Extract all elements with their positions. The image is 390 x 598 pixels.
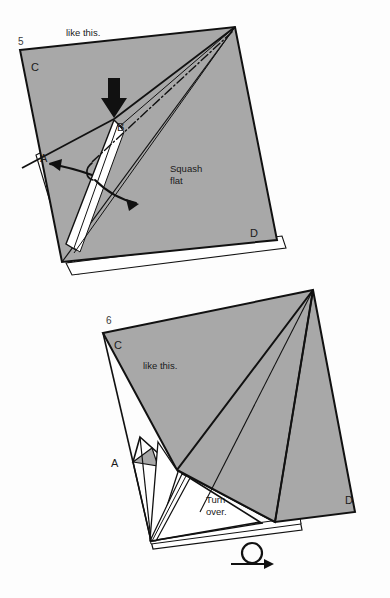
step-6-label-c: C — [114, 339, 122, 351]
step-5-instruction-line1: Squash — [170, 163, 202, 174]
step-6-instruction-line2: over. — [206, 506, 227, 517]
step-5-label-a: A — [40, 152, 48, 164]
step-6-label-a: A — [111, 457, 119, 469]
step-5-instruction-line2: flat — [170, 175, 183, 186]
step-6-caption: like this. — [143, 360, 177, 371]
step-6-label-d: D — [345, 494, 353, 506]
step-5-label-b: B — [117, 121, 124, 133]
turn-over-icon — [231, 543, 274, 569]
step-6-diagram: 6 C like this. A D Turn over. — [103, 290, 355, 569]
step-5-label-c: C — [31, 61, 39, 73]
step-6-number: 6 — [106, 315, 112, 326]
step-5-number: 5 — [18, 36, 24, 47]
figure-canvas: 5 like this. C A B D Squash flat — [0, 0, 390, 598]
step-5-caption: like this. — [66, 27, 100, 38]
step-5-diagram: 5 like this. C A B D Squash flat — [18, 27, 286, 275]
step-6-instruction-line1: Turn — [206, 494, 225, 505]
step-5-label-d: D — [250, 227, 258, 239]
diagram-page: 5 like this. C A B D Squash flat — [0, 0, 390, 598]
